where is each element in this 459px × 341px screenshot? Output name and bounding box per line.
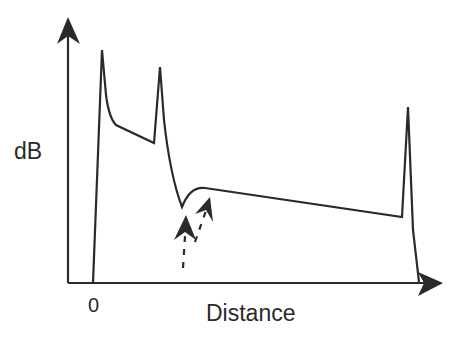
dashed-arrow-left <box>174 215 196 268</box>
otdr-trace <box>93 50 419 283</box>
x-axis <box>68 272 443 296</box>
x-axis-label: Distance <box>206 300 295 327</box>
y-axis-label: dB <box>14 138 42 165</box>
y-axis <box>57 17 80 283</box>
origin-label: 0 <box>88 294 99 317</box>
arrowhead-icon <box>195 197 213 222</box>
dashed-arrow-right <box>195 197 213 242</box>
otdr-diagram <box>0 0 459 341</box>
